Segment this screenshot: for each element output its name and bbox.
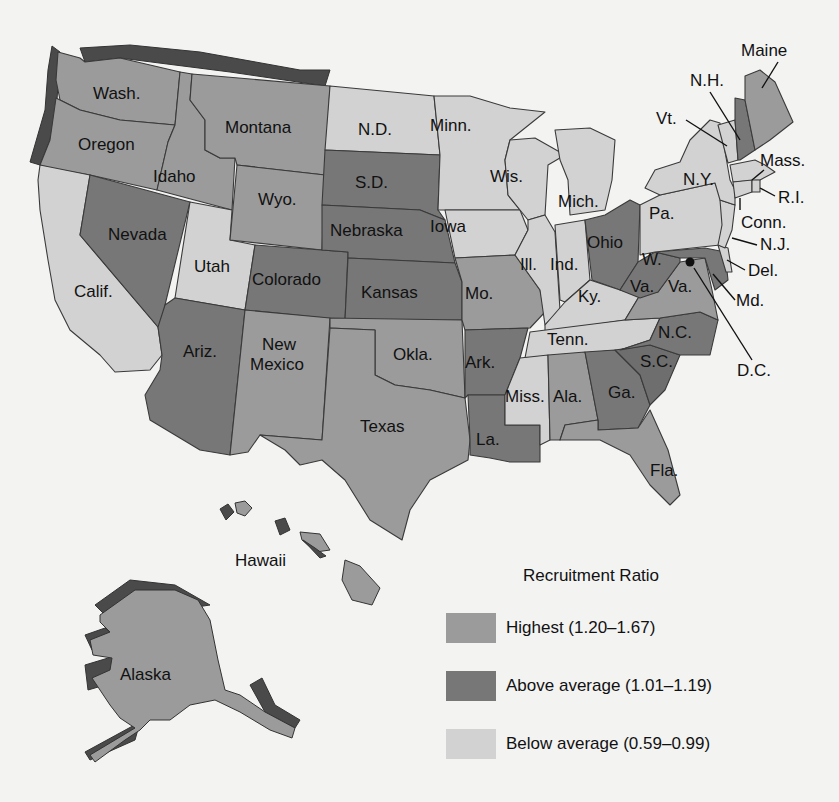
label-wis: Wis. (490, 167, 523, 186)
label-ill: Ill. (520, 255, 537, 274)
legend-title: Recruitment Ratio (523, 566, 659, 586)
label-kansas: Kansas (361, 283, 418, 302)
label-sd: S.D. (355, 173, 388, 192)
label-hawaii: Hawaii (235, 551, 286, 570)
label-va: Va. (668, 277, 692, 296)
legend-swatch-highest (446, 613, 496, 643)
label-colorado: Colorado (252, 270, 321, 289)
label-minn: Minn. (430, 116, 472, 135)
legend-swatch-below-average (446, 729, 496, 759)
legend-item-below-average: Below average (0.59–0.99) (446, 729, 710, 759)
label-ariz: Ariz. (183, 342, 217, 361)
label-maine: Maine (741, 41, 787, 60)
label-texas: Texas (360, 417, 404, 436)
label-nc: N.C. (658, 323, 692, 342)
label-idaho: Idaho (153, 167, 196, 186)
label-nevada: Nevada (108, 225, 167, 244)
label-utah: Utah (194, 257, 230, 276)
label-ind: Ind. (550, 255, 578, 274)
legend-item-highest: Highest (1.20–1.67) (446, 613, 655, 643)
label-ri: R.I. (778, 188, 804, 207)
label-mo: Mo. (465, 284, 493, 303)
label-fla: Fla. (650, 461, 678, 480)
label-tenn: Tenn. (547, 330, 589, 349)
label-conn: Conn. (741, 213, 786, 232)
state-maine[interactable] (745, 70, 793, 150)
label-ny: N.Y. (683, 170, 714, 189)
western-states (38, 52, 348, 455)
label-ga: Ga. (608, 383, 635, 402)
state-rhode-island[interactable] (752, 180, 760, 192)
label-montana: Montana (225, 118, 292, 137)
state-new-mexico[interactable] (230, 310, 330, 455)
label-pa: Pa. (649, 204, 675, 223)
label-okla: Okla. (393, 345, 433, 364)
label-iowa: Iowa (430, 217, 466, 236)
label-wva-2: Va. (630, 277, 654, 296)
dc-marker-icon[interactable] (686, 258, 695, 267)
label-md: Md. (736, 291, 764, 310)
label-ark: Ark. (465, 353, 495, 372)
label-mich: Mich. (558, 192, 599, 211)
legend-label-above-average: Above average (1.01–1.19) (506, 676, 712, 696)
label-vt: Vt. (656, 109, 677, 128)
label-wyo: Wyo. (258, 190, 297, 209)
label-nd: N.D. (358, 120, 392, 139)
label-ohio: Ohio (587, 233, 623, 252)
legend-swatch-above-average (446, 671, 496, 701)
label-nj: N.J. (760, 235, 790, 254)
label-la: La. (476, 430, 500, 449)
state-connecticut[interactable] (733, 180, 752, 198)
label-ky: Ky. (578, 287, 601, 306)
label-miss: Miss. (505, 387, 545, 406)
legend-label-below-average: Below average (0.59–0.99) (506, 734, 710, 754)
label-alaska: Alaska (120, 665, 172, 684)
label-mass: Mass. (760, 151, 805, 170)
label-sc: S.C. (640, 352, 673, 371)
legend-item-above-average: Above average (1.01–1.19) (446, 671, 712, 701)
us-choropleth-map: Wash. Oregon Calif. Idaho Nevada Utah Ar… (0, 0, 839, 802)
label-wva-1: W. (642, 250, 662, 269)
label-nebraska: Nebraska (330, 221, 403, 240)
label-calif: Calif. (74, 282, 113, 301)
label-new-mexico-1: New (262, 335, 297, 354)
label-ala: Ala. (553, 387, 582, 406)
label-dc: D.C. (737, 361, 771, 380)
label-oregon: Oregon (78, 135, 135, 154)
label-del: Del. (748, 261, 778, 280)
label-new-mexico-2: Mexico (250, 355, 304, 374)
label-nh: N.H. (690, 71, 724, 90)
state-alaska[interactable] (85, 580, 300, 762)
label-wash: Wash. (93, 84, 141, 103)
state-arizona[interactable] (145, 298, 245, 455)
legend-label-highest: Highest (1.20–1.67) (506, 618, 655, 638)
